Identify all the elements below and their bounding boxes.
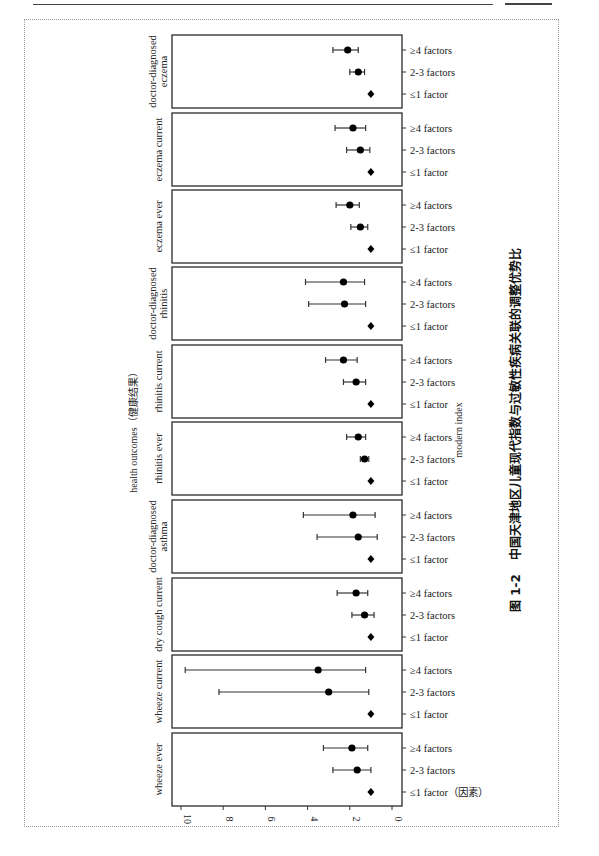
estimate-row: ≥4 factors xyxy=(185,665,452,676)
estimate-row: ≤1 factor xyxy=(367,399,448,410)
panel-outcome-label: rhinitis current xyxy=(153,350,164,412)
svg-text:图 1-2 中国天津地区儿童现代指数与过敏性疾病: 图 1-2 中国天津地区儿童现代指数与过敏性疾病关联的调整优势比 xyxy=(508,248,523,612)
axis-tick-label: 6 xyxy=(266,817,277,822)
row-group-label: ≤1 factor xyxy=(410,632,449,643)
estimate-row: ≥4 factors xyxy=(347,432,453,443)
odds-ratio-point xyxy=(346,201,353,208)
row-group-label: ≤1 factor xyxy=(410,244,449,255)
estimate-row: 2-3 factors xyxy=(360,454,455,465)
panels-group: doctor-diagnosedeczema≥4 factors2-3 fact… xyxy=(147,34,488,806)
estimate-row: ≤1 factor xyxy=(367,476,448,487)
estimate-row: ≥4 factors xyxy=(326,355,453,366)
row-group-label: ≤1 factor xyxy=(410,399,449,410)
row-group-label: ≤1 factor xyxy=(410,476,449,487)
figure-caption: 图 1-2 中国天津地区儿童现代指数与过敏性疾病关联的调整优势比 xyxy=(508,248,523,612)
estimate-row: ≥4 factors xyxy=(323,743,452,754)
row-group-label: ≥4 factors xyxy=(410,588,452,599)
panel-outcome-label: eczema ever xyxy=(153,200,164,253)
odds-ratio-point xyxy=(349,124,356,131)
panel-dry-cough-current: dry cough current≥4 factors2-3 factors≤1… xyxy=(153,577,455,652)
reference-diamond-marker xyxy=(367,633,374,641)
row-group-label: 2-3 factors xyxy=(410,454,455,465)
reference-diamond-marker xyxy=(367,90,374,98)
estimate-row: ≥4 factors xyxy=(337,588,452,599)
odds-ratio-point xyxy=(315,666,322,673)
row-group-label: 2-3 factors xyxy=(410,610,455,621)
panel-outcome-label: eczema current xyxy=(153,118,164,182)
panel-border xyxy=(172,345,402,418)
odds-ratio-point xyxy=(361,611,368,618)
estimate-row: ≥4 factors xyxy=(335,123,452,134)
estimate-row: ≤1 factor xyxy=(367,167,448,178)
row-group-label: 2-3 factors xyxy=(410,299,455,310)
odds-ratio-point xyxy=(341,300,348,307)
row-group-label: ≥4 factors xyxy=(410,432,452,443)
row-group-label: 2-3 factors xyxy=(410,687,455,698)
panel-outcome-label: wheeze current xyxy=(153,660,164,724)
estimate-row: 2-3 factors xyxy=(347,145,456,156)
row-group-label: ≥4 factors xyxy=(410,200,452,211)
panel-outcome-label: wheeze ever xyxy=(153,743,164,796)
reference-diamond-marker xyxy=(367,710,374,718)
estimate-row: ≤1 factor xyxy=(367,89,448,100)
row-group-label: ≥4 factors xyxy=(410,277,452,288)
estimate-row: ≤1 factor xyxy=(367,632,448,643)
panel-border xyxy=(172,35,402,108)
row-group-label: 2-3 factors xyxy=(410,377,455,388)
row-group-label: ≤1 factor xyxy=(410,89,449,100)
estimate-row: 2-3 factors xyxy=(317,532,455,543)
row-group-label: ≥4 factors xyxy=(410,123,452,134)
panel-wheeze-current: wheeze current≥4 factors2-3 factors≤1 fa… xyxy=(153,655,455,728)
estimate-row: 2-3 factors xyxy=(309,299,456,310)
panel-eczema-ever: eczema ever≥4 factors2-3 factors≤1 facto… xyxy=(153,190,455,263)
row-group-label: ≤1 factor xyxy=(410,321,449,332)
reference-diamond-marker xyxy=(367,400,374,408)
forest-plot: doctor-diagnosedeczema≥4 factors2-3 fact… xyxy=(0,0,599,856)
row-group-label: ≥4 factors xyxy=(410,743,452,754)
row-group-label: 2-3 factors xyxy=(410,145,455,156)
row-group-label: ≥4 factors xyxy=(410,510,452,521)
row-group-label: ≥4 factors xyxy=(410,665,452,676)
estimate-row: 2-3 factors xyxy=(333,765,455,776)
odds-ratio-point xyxy=(354,766,361,773)
estimate-row: ≤1 factor xyxy=(367,709,448,720)
health-outcomes-axis-title: health outcomes（健康结果） xyxy=(127,367,139,492)
reference-diamond-marker xyxy=(367,168,374,176)
odds-ratio-point xyxy=(355,533,362,540)
panel-rhinitis-current: rhinitis current≥4 factors2-3 factors≤1 … xyxy=(153,345,455,418)
odds-ratio-point xyxy=(355,68,362,75)
estimate-row: 2-3 factors xyxy=(343,377,455,388)
estimate-row: ≤1 factor xyxy=(367,554,448,565)
panel-doctor-diagnosed-eczema: doctor-diagnosedeczema≥4 factors2-3 fact… xyxy=(147,34,455,108)
axis-tick-label: 10 xyxy=(182,814,193,824)
odds-ratio-point xyxy=(353,589,360,596)
panel-outcome-label: doctor-diagnosedeczema xyxy=(147,34,169,107)
axis-tick-label: 2 xyxy=(351,817,362,822)
odds-ratio-point xyxy=(344,46,351,53)
estimate-row: ≥4 factors xyxy=(305,277,452,288)
panel-eczema-current: eczema current≥4 factors2-3 factors≤1 fa… xyxy=(153,113,455,186)
odds-ratio-point xyxy=(349,511,356,518)
panel-doctor-diagnosed-rhinitis: doctor-diagnosedrhinitis≥4 factors2-3 fa… xyxy=(147,266,455,340)
panel-outcome-label: rhinitis ever xyxy=(153,433,164,484)
axis-tick-label: 8 xyxy=(224,817,235,822)
odds-ratio-point xyxy=(355,433,362,440)
odds-ratio-point xyxy=(357,146,364,153)
reference-diamond-marker xyxy=(367,788,374,796)
axis-tick-label: 4 xyxy=(309,817,320,822)
row-group-label: 2-3 factors xyxy=(410,67,455,78)
odds-ratio-point xyxy=(357,223,364,230)
estimate-row: 2-3 factors xyxy=(219,687,455,698)
row-group-label: 2-3 factors xyxy=(410,765,455,776)
odds-ratio-point xyxy=(340,278,347,285)
row-group-label: ≥4 factors xyxy=(410,45,452,56)
odds-ratio-point xyxy=(361,455,368,462)
estimate-row: ≥4 factors xyxy=(303,510,452,521)
panel-outcome-label: doctor-diagnosedrhinitis xyxy=(147,266,169,339)
value-axis: 1086420 xyxy=(181,806,404,824)
odds-ratio-point xyxy=(325,688,332,695)
panel-rhinitis-ever: rhinitis ever≥4 factors2-3 factors≤1 fac… xyxy=(153,422,455,495)
row-group-label: ≥4 factors xyxy=(410,355,452,366)
odds-ratio-point xyxy=(353,378,360,385)
estimate-row: 2-3 factors xyxy=(352,610,455,621)
